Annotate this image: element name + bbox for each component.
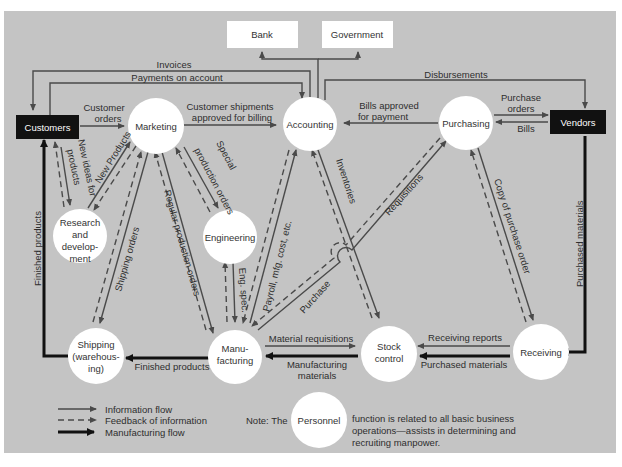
marketing-label: Marketing bbox=[135, 121, 177, 132]
label-manufacturing-materials-1: Manufacturing bbox=[287, 359, 347, 370]
label-customer-shipments-2: approved for billing bbox=[192, 112, 272, 123]
research-label-2: and bbox=[72, 229, 88, 240]
label-shipping-orders: Shipping orders bbox=[112, 225, 141, 292]
label-customer-shipments-1: Customer shipments bbox=[186, 101, 273, 112]
label-purchase-orders-2: orders bbox=[508, 103, 535, 114]
flow-government bbox=[318, 52, 358, 59]
stock-control-label-2: control bbox=[375, 353, 404, 364]
label-copy-purchase-order: Copy of purchase order bbox=[492, 177, 533, 275]
business-flow-diagram: Bank Government Customers Vendors Market… bbox=[0, 0, 622, 467]
label-bills-approved-1: Bills approved bbox=[359, 100, 419, 111]
label-customer-orders-2: orders bbox=[95, 113, 122, 124]
label-payments: Payments on account bbox=[131, 72, 223, 83]
note-line-1: function is related to all basic busines… bbox=[352, 413, 514, 424]
research-label-4: ment bbox=[69, 253, 90, 264]
label-purchased-materials-vertical: Purchased materials bbox=[574, 200, 585, 287]
customers-label: Customers bbox=[25, 122, 71, 133]
note-prefix: Note: The bbox=[246, 415, 288, 426]
bank-label: Bank bbox=[251, 29, 273, 40]
label-customer-orders-1: Customer bbox=[83, 102, 124, 113]
flow-copy-purchase-order bbox=[478, 148, 533, 320]
feedback-manufacturing-engineering bbox=[225, 262, 227, 322]
label-inventories: Inventories bbox=[334, 157, 359, 205]
label-bills-approved-2: for payment bbox=[358, 111, 409, 122]
personnel-label: Personnel bbox=[298, 415, 341, 426]
label-regular-production: Regular production orders bbox=[162, 189, 203, 298]
manufacturing-label-2: facturing bbox=[217, 355, 253, 366]
legend: Information flow Feedback of information… bbox=[58, 404, 207, 438]
label-invoices: Invoices bbox=[157, 59, 192, 70]
label-purchased-materials: Purchased materials bbox=[421, 359, 508, 370]
label-finished-products: Finished products bbox=[135, 361, 210, 372]
legend-manufacturing-flow: Manufacturing flow bbox=[105, 427, 185, 438]
note-line-2: operations—assists in determining and bbox=[352, 425, 516, 436]
receiving-label: Receiving bbox=[520, 347, 562, 358]
label-new-products: New Products bbox=[92, 129, 133, 185]
label-special-production-1: Special bbox=[214, 139, 238, 172]
label-finished-products-vertical: Finished products bbox=[32, 211, 43, 286]
shipping-label-2: (warehous- bbox=[72, 351, 120, 362]
shipping-label-1: Shipping bbox=[78, 339, 115, 350]
vendors-label: Vendors bbox=[561, 117, 596, 128]
stock-control-label-1: Stock bbox=[377, 341, 401, 352]
label-disbursements: Disbursements bbox=[424, 69, 488, 80]
label-manufacturing-materials-2: materials bbox=[298, 370, 337, 381]
purchasing-label: Purchasing bbox=[442, 118, 490, 129]
engineering-label: Engineering bbox=[205, 232, 256, 243]
label-eng-spec: Eng. spec. bbox=[237, 267, 251, 313]
legend-information-flow: Information flow bbox=[105, 404, 172, 415]
feedback-rd-customers bbox=[55, 142, 64, 207]
government-label: Government bbox=[331, 29, 384, 40]
label-receiving-reports: Receiving reports bbox=[428, 332, 502, 343]
manufacturing-label-1: Manu- bbox=[222, 343, 249, 354]
label-bills: Bills bbox=[517, 123, 535, 134]
note-line-3: recruiting manpower. bbox=[352, 437, 440, 448]
legend-feedback: Feedback of information bbox=[105, 415, 207, 426]
accounting-label: Accounting bbox=[286, 119, 333, 130]
research-label-1: Research bbox=[60, 217, 101, 228]
research-label-3: develop- bbox=[62, 241, 98, 252]
shipping-label-3: ing) bbox=[88, 363, 104, 374]
label-purchase-orders-1: Purchase bbox=[501, 92, 541, 103]
label-material-requisitions: Material requisitions bbox=[269, 333, 354, 344]
flow-eng-spec bbox=[233, 262, 235, 322]
